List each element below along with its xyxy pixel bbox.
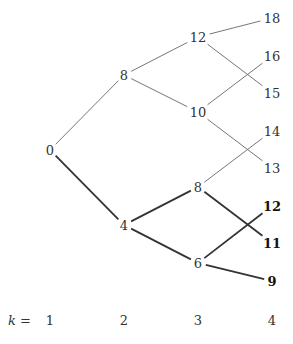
node-n9: 9 (267, 274, 276, 289)
edge-n12a-n15 (208, 44, 263, 86)
node-n0: 0 (46, 143, 54, 158)
edge-n0-n8a (56, 81, 119, 145)
k-axis: k = 1 2 3 4 (8, 313, 276, 328)
edge-n6-n12b (204, 213, 262, 258)
edge-n10-n13 (208, 119, 263, 161)
node-n14: 14 (264, 124, 281, 139)
k-value-3: 3 (194, 313, 202, 328)
node-n18: 18 (264, 11, 281, 26)
node-n4: 4 (120, 218, 128, 233)
node-n8b: 8 (194, 180, 202, 195)
node-n15: 15 (264, 86, 281, 101)
edge-n8a-n12a (131, 42, 187, 71)
node-n11: 11 (263, 236, 281, 251)
node-n12b: 12 (263, 199, 281, 214)
edge-n12a-n18 (210, 21, 261, 34)
k-value-2: 2 (120, 313, 128, 328)
edge-n0-n4 (56, 156, 119, 220)
k-value-4: 4 (268, 313, 276, 328)
nodes-layer: 084121086181615141312119 (46, 11, 281, 289)
node-n8a: 8 (120, 68, 128, 83)
edge-n6-n9 (206, 265, 264, 279)
edge-n4-n6 (131, 229, 191, 260)
k-axis-label: k = (8, 313, 31, 328)
edge-n8b-n14 (204, 138, 262, 182)
node-n13: 13 (264, 161, 281, 176)
node-n16: 16 (264, 49, 281, 64)
node-n12a: 12 (190, 30, 207, 45)
edge-n8b-n11 (204, 192, 262, 236)
node-n6: 6 (194, 256, 202, 271)
edge-n10-n16 (208, 63, 263, 105)
edge-n8a-n10 (131, 79, 187, 107)
edges-layer (56, 21, 265, 279)
k-value-1: 1 (46, 313, 54, 328)
node-n10: 10 (190, 105, 207, 120)
edge-n4-n8b (131, 191, 191, 222)
tree-diagram: 084121086181615141312119 k = 1 2 3 4 (0, 0, 293, 344)
